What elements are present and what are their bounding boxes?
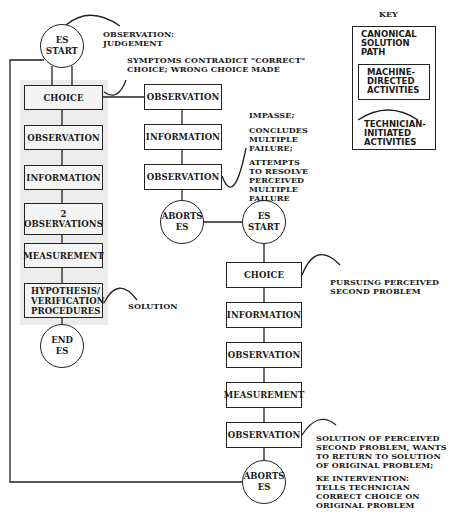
right-choice-node: CHOICE — [226, 262, 302, 288]
right-es-start-node: ES START — [242, 200, 286, 244]
left-2-observations-node: 2 OBSERVATIONS — [24, 203, 103, 235]
annotation-impasse: IMPASSE; — [249, 111, 294, 120]
middle-aborts-es-node: ABORTS ES — [160, 200, 204, 244]
annotation-pursuing-second-problem: PURSUING PERCEIVED SECOND PROBLEM — [330, 278, 439, 296]
key-canonical-path-label: CANONICAL SOLUTION PATH — [361, 30, 417, 57]
left-information-node: INFORMATION — [24, 165, 103, 190]
left-observation-node: OBSERVATION — [24, 125, 103, 150]
left-es-start-node: ES START — [40, 24, 84, 68]
left-choice-node: CHOICE — [24, 85, 103, 110]
annotation-solution-second-problem: SOLUTION OF PERCEIVED SECOND PROBLEM, WA… — [316, 434, 447, 470]
right-measurement-node: MEASUREMENT — [226, 382, 302, 408]
left-hypothesis-node: HYPOTHESIS/ VERIFICATION PROCEDURES — [24, 283, 103, 318]
annotation-concludes-multiple-failure: CONCLUDES MULTIPLE FAILURE; — [249, 126, 308, 153]
annotation-observation-judgement: OBSERVATION: JUDGEMENT — [103, 30, 174, 48]
right-aborts-es-node: ABORTS ES — [242, 460, 286, 504]
key-technician-initiated-label: TECHNICIAN- INITIATED ACTIVITIES — [364, 120, 426, 147]
middle-observation-2-node: OBSERVATION — [144, 164, 222, 190]
left-end-es-node: END ES — [40, 324, 84, 368]
right-observation-2-node: OBSERVATION — [226, 422, 302, 448]
annotation-ke-intervention: KE INTERVENTION: TELLS TECHNICIAN CORREC… — [316, 474, 420, 510]
key-machine-directed-label: MACHINE- DIRECTED ACTIVITIES — [367, 68, 419, 95]
key-title: KEY — [379, 9, 398, 19]
right-information-node: INFORMATION — [226, 302, 302, 328]
annotation-solution: SOLUTION — [128, 302, 178, 311]
middle-observation-node: OBSERVATION — [144, 84, 222, 110]
left-measurement-node: MEASUREMENT — [24, 243, 103, 268]
right-observation-node: OBSERVATION — [226, 342, 302, 368]
annotation-symptoms-contradict: SYMPTOMS CONTRADICT "CORRECT" CHOICE; WR… — [127, 56, 305, 74]
annotation-attempts-resolve: ATTEMPTS TO RESOLVE PERCEIVED MULTIPLE F… — [249, 158, 308, 203]
middle-information-node: INFORMATION — [144, 124, 222, 150]
